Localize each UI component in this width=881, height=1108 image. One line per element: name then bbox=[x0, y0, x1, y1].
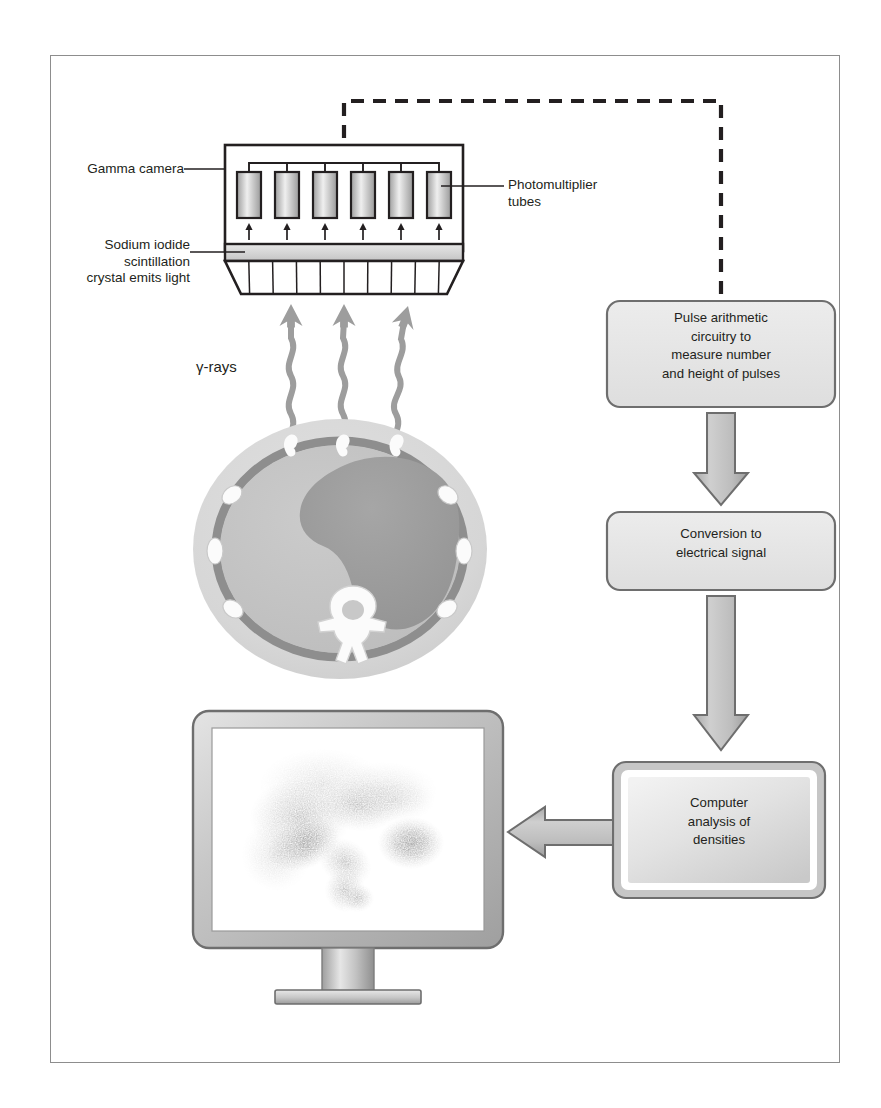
box-computer-analysis bbox=[613, 762, 825, 898]
label-photomultiplier-tubes: Photomultipliertubes bbox=[508, 177, 658, 210]
monitor-base bbox=[275, 990, 421, 1004]
box-pulse-arithmetic bbox=[607, 301, 835, 407]
scintillation-crystal bbox=[225, 244, 463, 261]
label-gamma-camera: Gamma camera bbox=[44, 161, 184, 178]
label-gamma-rays: γ-rays bbox=[196, 358, 237, 377]
gamma-ray-arrowheads bbox=[280, 304, 414, 330]
display-monitor bbox=[193, 711, 503, 1004]
flow-arrow-2 bbox=[694, 596, 748, 750]
box-conversion bbox=[607, 512, 835, 590]
gamma-camera-assembly bbox=[225, 145, 463, 294]
monitor-neck bbox=[322, 948, 374, 992]
body-cross-section bbox=[193, 419, 487, 679]
label-sodium-iodide: Sodium iodidescintillationcrystal emits … bbox=[34, 237, 190, 287]
flow-arrow-3 bbox=[508, 807, 613, 857]
flow-arrow-1 bbox=[694, 413, 748, 505]
